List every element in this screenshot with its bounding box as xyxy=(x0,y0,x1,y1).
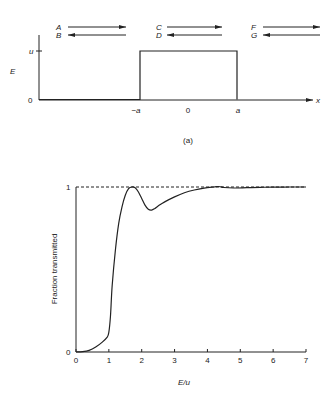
x-tick-label: 1 xyxy=(107,356,112,365)
y-tick-label: 0 xyxy=(66,348,71,357)
x-axis-label-x: x xyxy=(315,96,321,105)
x-tick-label: 3 xyxy=(172,356,177,365)
x-tick-label: 0 xyxy=(74,356,79,365)
y-tick-0: 0 xyxy=(28,96,33,105)
y-tick-u: u xyxy=(29,47,34,56)
transmission-curve xyxy=(76,186,306,352)
wave-label-G: G xyxy=(251,31,257,40)
wave-label-D: D xyxy=(156,31,162,40)
x-tick-minus-a: −a xyxy=(131,106,141,115)
x-tick-label: 6 xyxy=(271,356,276,365)
chart-y-label: Fraction transmitted xyxy=(50,234,59,305)
x-tick-label: 5 xyxy=(238,356,243,365)
caption-a: (a) xyxy=(183,136,193,145)
x-tick-label: 4 xyxy=(205,356,210,365)
barrier-profile xyxy=(39,51,237,100)
y-axis-label-E: E xyxy=(10,67,16,76)
wave-label-B: B xyxy=(56,31,62,40)
transmission-chart: 01234567 01 Fraction transmitted E/u xyxy=(50,183,309,387)
figure: u E 0 x −a 0 a A B C D F G (a) 01234567 … xyxy=(0,0,328,396)
x-tick-0: 0 xyxy=(186,106,191,115)
y-tick-label: 1 xyxy=(66,183,71,192)
x-tick-label: 7 xyxy=(304,356,309,365)
x-tick-a: a xyxy=(236,106,241,115)
chart-x-label: E/u xyxy=(178,378,191,387)
x-tick-label: 2 xyxy=(139,356,144,365)
potential-barrier-diagram: u E 0 x −a 0 a A B C D F G (a) xyxy=(10,23,321,145)
